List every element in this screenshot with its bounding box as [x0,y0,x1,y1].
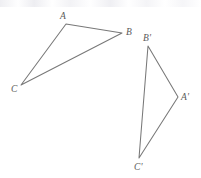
triangle-a-prime-b-prime-c-prime-outline [139,46,178,158]
vertex-label-c-prime: C' [134,162,143,172]
figure-canvas [0,0,201,178]
vertex-label-a: A [60,11,66,21]
vertex-label-b-prime: B' [143,33,151,43]
geometry-figure: A B C B' A' C' [0,0,201,178]
triangle-abc-outline [21,24,122,85]
vertex-label-c: C [11,84,17,94]
vertex-label-a-prime: A' [181,92,189,102]
vertex-label-b: B [126,27,132,37]
